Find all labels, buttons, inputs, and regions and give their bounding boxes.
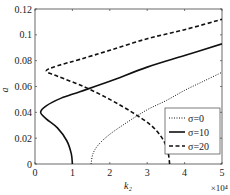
x-tick-label: 5 (220, 167, 225, 178)
y-tick-label: 0.08 (15, 55, 33, 66)
x-axis-label: k₂ (124, 180, 132, 191)
y-tick-label: 0.02 (15, 133, 33, 144)
y-tick-label: 0.06 (15, 81, 33, 92)
x-tick-label: 3 (145, 167, 150, 178)
y-axis-label: a (0, 88, 10, 93)
x-tick-label: 1 (70, 167, 75, 178)
y-tick-label: 0 (27, 159, 32, 170)
x-tick-label: 2 (107, 167, 112, 178)
x-tick-label: 4 (182, 167, 187, 178)
y-tick-label: 0.1 (20, 29, 33, 40)
y-tick-label: 0.04 (15, 107, 33, 118)
legend: σ=0σ=10σ=20 (165, 108, 220, 154)
legend-label: σ=0 (188, 113, 204, 124)
legend-label: σ=10 (188, 127, 209, 138)
legend-label: σ=20 (188, 141, 209, 152)
line-chart: 01234500.020.040.060.080.10.12 k₂ ×10⁴ a… (0, 0, 230, 195)
y-tick-label: 0.12 (15, 4, 33, 15)
x-tick-label: 0 (33, 167, 38, 178)
x-scale-note: ×10⁴ (211, 183, 228, 193)
